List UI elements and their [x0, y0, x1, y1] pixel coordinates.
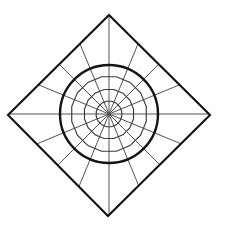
figure-canvas	[0, 0, 226, 229]
radial-diagram	[0, 0, 226, 229]
